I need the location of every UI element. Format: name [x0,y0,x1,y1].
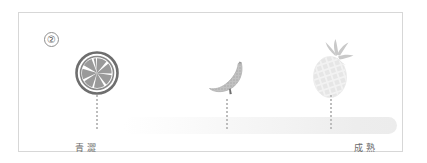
connector-line-mid [226,99,230,129]
banana-icon [179,61,275,99]
scale-end-label: 成熟 [354,141,378,154]
connector-line-unripe [96,95,100,129]
figure-frame: ② [18,12,403,152]
pineapple-icon [283,37,379,103]
stage-mid [179,33,275,161]
connector-line-ripe [330,95,334,129]
citrus-slice-icon [49,51,145,99]
ripeness-scale-figure: ② [0,0,427,163]
scale-start-label: 青澀 [75,141,99,154]
